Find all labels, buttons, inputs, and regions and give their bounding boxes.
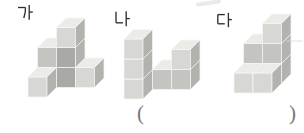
cube-face-front [124,39,143,59]
cube-face-front [153,70,172,90]
cube-face-front [57,48,76,68]
cube-ga-000 [28,68,57,98]
figure-na [116,11,200,99]
cube-face-front [57,28,76,48]
figure-da [218,13,291,93]
cube-face-front [57,68,76,88]
cube-face-front [28,77,47,97]
cube-face-front [124,59,143,79]
cube-face-front [244,44,263,64]
cube-face-front [253,73,272,93]
cube-face-front [234,73,253,93]
answer-paren-open: ( [137,102,144,124]
figure-ga [18,5,104,97]
answer-paren-close: ) [289,102,296,124]
figure-label-ga [18,5,33,20]
cube-face-front [38,48,57,68]
figure-label-da [218,13,232,27]
cube-face-front [124,79,143,99]
block-figures-canvas [0,0,304,133]
cube-face-front [263,44,282,64]
cube-face-front [76,68,95,88]
worksheet-page: ( ) [0,0,304,133]
cube-face-front [172,70,191,90]
figure-label-na [116,11,130,26]
cube-face-front [172,50,191,70]
label-stroke [24,8,26,19]
cube-face-front [263,24,282,44]
scan-artifact [286,40,303,42]
